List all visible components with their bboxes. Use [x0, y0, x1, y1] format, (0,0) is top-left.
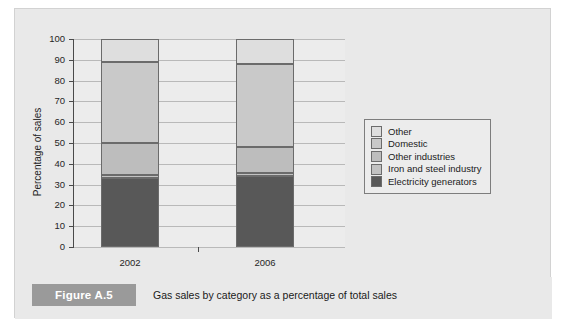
figure-page: Percentage of sales 01020304050607080901…	[0, 0, 565, 333]
bar-segment	[101, 39, 159, 62]
stacked-bar	[101, 39, 159, 247]
chart-legend: OtherDomesticOther industriesIron and st…	[364, 119, 491, 194]
y-axis-tick	[69, 247, 74, 248]
y-axis-tick-label: 0	[60, 242, 65, 252]
y-axis-tick-label: 70	[54, 97, 65, 107]
legend-swatch	[371, 164, 382, 175]
y-axis-tick-label: 20	[54, 201, 65, 211]
y-axis-tick	[69, 164, 74, 165]
legend-swatch	[371, 176, 382, 187]
y-axis-tick	[69, 81, 74, 82]
legend-swatch	[371, 151, 382, 162]
bar-segment	[236, 64, 294, 147]
figure-caption: Gas sales by category as a percentage of…	[153, 289, 397, 301]
x-axis-tick-label: 2002	[119, 257, 140, 268]
bar-segment	[236, 147, 294, 173]
legend-label: Other	[388, 127, 412, 137]
y-axis-tick	[69, 60, 74, 61]
legend-label: Electricity generators	[388, 177, 477, 187]
y-axis-tick-label: 80	[54, 76, 65, 86]
legend-item: Domestic	[371, 138, 481, 151]
gridline	[74, 247, 345, 248]
legend-item: Electricity generators	[371, 175, 481, 188]
y-axis-tick-label: 30	[54, 180, 65, 190]
bar-segment	[101, 62, 159, 143]
bar-segment	[236, 39, 294, 64]
y-axis-tick-label: 40	[54, 159, 65, 169]
y-axis-tick	[69, 39, 74, 40]
bar-segment	[101, 143, 159, 175]
y-axis-tick	[69, 205, 74, 206]
caption-bar: Figure A.5 Gas sales by category as a pe…	[15, 277, 552, 319]
legend-item: Iron and steel industry	[371, 163, 481, 176]
y-axis-tick-label: 10	[54, 221, 65, 231]
legend-label: Other industries	[388, 152, 455, 162]
plot-frame: 0102030405060708090100 20022006	[73, 39, 345, 248]
y-axis-tick-label: 60	[54, 117, 65, 127]
bar-segment	[101, 175, 159, 178]
y-axis-tick	[69, 143, 74, 144]
x-axis-tick-label: 2006	[254, 257, 275, 268]
legend-swatch	[371, 126, 382, 137]
y-axis-tick-label: 100	[49, 34, 65, 44]
y-axis-tick	[69, 101, 74, 102]
legend-item: Other industries	[371, 150, 481, 163]
legend-item: Other	[371, 125, 481, 138]
y-axis-tick-label: 90	[54, 55, 65, 65]
bar-segment	[236, 176, 294, 247]
y-axis-tick	[69, 122, 74, 123]
figure-number-badge: Figure A.5	[32, 284, 136, 306]
bar-segment	[101, 178, 159, 247]
figure-number-label: Figure A.5	[55, 289, 113, 301]
stacked-bar	[236, 39, 294, 247]
y-axis-tick	[69, 185, 74, 186]
chart-area: Percentage of sales 01020304050607080901…	[15, 9, 552, 277]
figure-panel: Percentage of sales 01020304050607080901…	[14, 8, 551, 318]
y-axis-tick-label: 50	[54, 138, 65, 148]
legend-label: Iron and steel industry	[388, 164, 481, 174]
x-axis-tick	[198, 247, 199, 252]
y-axis-title: Percentage of sales	[32, 108, 43, 196]
y-axis-tick	[69, 226, 74, 227]
legend-swatch	[371, 138, 382, 149]
bar-segment	[236, 173, 294, 176]
legend-label: Domestic	[388, 139, 428, 149]
